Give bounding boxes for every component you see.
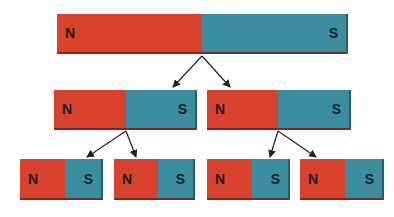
- south-label: S: [365, 171, 374, 187]
- south-label: S: [271, 171, 280, 187]
- arrow: [126, 131, 136, 157]
- south-pole: S: [65, 159, 101, 198]
- small-magnet-2: N S: [114, 159, 195, 200]
- north-pole: N: [114, 159, 158, 198]
- south-label: S: [329, 25, 338, 41]
- north-label: N: [65, 25, 75, 41]
- arrow: [202, 56, 230, 87]
- north-label: N: [122, 171, 132, 187]
- small-magnet-3: N S: [207, 159, 290, 200]
- large-magnet: N S: [57, 14, 348, 54]
- south-pole: S: [202, 14, 346, 52]
- arrow: [278, 131, 316, 157]
- north-label: N: [215, 171, 225, 187]
- small-magnet-4: N S: [300, 159, 384, 200]
- north-pole: N: [54, 90, 126, 128]
- north-label: N: [62, 101, 72, 117]
- south-label: S: [84, 171, 93, 187]
- north-pole: N: [207, 159, 252, 198]
- north-label: N: [215, 101, 225, 117]
- north-pole: N: [20, 159, 65, 198]
- arrow: [173, 56, 202, 87]
- south-label: S: [176, 171, 185, 187]
- mid-left-magnet: N S: [54, 90, 197, 130]
- south-pole: S: [158, 159, 193, 198]
- south-pole: S: [278, 90, 349, 128]
- south-label: S: [178, 101, 187, 117]
- mid-right-magnet: N S: [207, 90, 351, 130]
- south-label: S: [332, 101, 341, 117]
- south-pole: S: [345, 159, 382, 198]
- north-label: N: [308, 171, 318, 187]
- south-pole: S: [126, 90, 195, 128]
- north-pole: N: [57, 14, 202, 52]
- arrow: [270, 131, 278, 157]
- north-label: N: [28, 171, 38, 187]
- small-magnet-1: N S: [20, 159, 103, 200]
- south-pole: S: [252, 159, 288, 198]
- north-pole: N: [207, 90, 278, 128]
- north-pole: N: [300, 159, 345, 198]
- arrow: [87, 131, 126, 157]
